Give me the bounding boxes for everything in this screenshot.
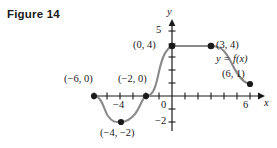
point-0-4 [169,43,176,50]
point-minus4-minus2 [118,119,124,125]
point-minus6-0 [91,93,97,99]
function-equation-label: y = f(x) [216,53,248,64]
tick-label-6: 6 [243,99,248,110]
point-label-minus6-0: (−6, 0) [64,73,93,84]
point-label-0-4: (0, 4) [133,39,156,50]
point-label-minus2-0: (−2, 0) [118,73,147,84]
tick-label-5: 5 [156,24,161,35]
tick-label-minus-2: −2 [155,115,166,126]
point-3-4 [208,43,215,50]
point-label-minus4-minus2: (−4, −2) [100,127,135,138]
y-axis-arrow [169,19,176,26]
tick-label-0: 0 [161,99,166,110]
x-axis-label: x [264,97,269,108]
tick-label-minus-4: −4 [113,99,124,110]
point-6-1 [247,81,253,87]
y-axis-label: y [167,6,172,17]
point-minus2-0 [143,93,149,99]
point-label-6-1: (6, 1) [222,68,245,79]
figure-container: Figure 14 [0,0,277,148]
point-label-3-4: (3, 4) [216,39,239,50]
